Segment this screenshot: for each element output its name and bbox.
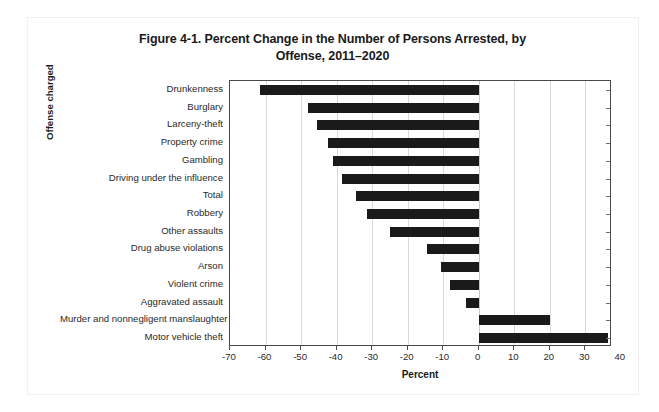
y-axis-tick-label: Aggravated assault bbox=[60, 296, 223, 307]
bar-row bbox=[230, 205, 610, 223]
bar-row bbox=[230, 134, 610, 152]
y-axis-tick bbox=[606, 303, 610, 304]
bar-row bbox=[230, 116, 610, 134]
x-axis-title: Percent bbox=[229, 369, 611, 380]
y-axis-tick-label: Total bbox=[60, 189, 223, 200]
y-axis-tick bbox=[606, 125, 610, 126]
x-axis-tick-label: -50 bbox=[293, 351, 307, 362]
x-axis-tick bbox=[229, 346, 230, 350]
x-axis-tick bbox=[442, 346, 443, 350]
chart-title: Figure 4-1. Percent Change in the Number… bbox=[60, 31, 605, 65]
bar-row bbox=[230, 312, 610, 330]
x-axis-tick bbox=[265, 346, 266, 350]
x-axis-tick-label: -60 bbox=[258, 351, 272, 362]
figure-container: Figure 4-1. Percent Change in the Number… bbox=[0, 0, 659, 412]
x-axis-tick-label: 20 bbox=[543, 351, 554, 362]
bar-row bbox=[230, 276, 610, 294]
y-axis-tick-label: Robbery bbox=[60, 207, 223, 218]
bar bbox=[479, 315, 550, 325]
y-axis-tick bbox=[606, 267, 610, 268]
x-axis-tick-label: 10 bbox=[508, 351, 519, 362]
y-axis-tick-label: Arson bbox=[60, 260, 223, 271]
y-axis-tick-label: Other assaults bbox=[60, 225, 223, 236]
bar bbox=[317, 120, 479, 130]
y-axis-tick bbox=[606, 90, 610, 91]
x-axis-tick bbox=[300, 346, 301, 350]
chart-title-line-1: Figure 4-1. Percent Change in the Number… bbox=[60, 31, 605, 48]
bar bbox=[427, 244, 479, 254]
y-axis-tick-label: Drug abuse violations bbox=[60, 242, 223, 253]
bar bbox=[479, 333, 609, 343]
bar-row bbox=[230, 223, 610, 241]
y-axis-tick bbox=[606, 285, 610, 286]
y-axis-tick bbox=[606, 108, 610, 109]
chart-title-line-2: Offense, 2011–2020 bbox=[60, 48, 605, 65]
bar-row bbox=[230, 329, 610, 346]
y-axis-title: Offense charged bbox=[44, 64, 55, 140]
x-axis-tick bbox=[407, 346, 408, 350]
y-axis-tick bbox=[606, 338, 610, 339]
y-axis-tick bbox=[606, 232, 610, 233]
x-axis-tick bbox=[336, 346, 337, 350]
x-axis-tick-label: 40 bbox=[615, 351, 626, 362]
bar bbox=[356, 191, 479, 201]
bar bbox=[328, 138, 479, 148]
y-axis-tick bbox=[606, 143, 610, 144]
bar-row bbox=[230, 99, 610, 117]
y-axis-tick bbox=[606, 179, 610, 180]
bar-row bbox=[230, 258, 610, 276]
x-axis-tick-label: 30 bbox=[579, 351, 590, 362]
bar bbox=[308, 103, 479, 113]
y-axis-tick-labels: DrunkennessBurglaryLarceny-theftProperty… bbox=[60, 80, 223, 346]
y-axis-tick bbox=[606, 214, 610, 215]
bar-row bbox=[230, 187, 610, 205]
x-axis-tick bbox=[478, 346, 479, 350]
bar-row bbox=[230, 81, 610, 99]
x-axis-tick-label: -30 bbox=[364, 351, 378, 362]
y-axis-tick bbox=[606, 249, 610, 250]
plot-area bbox=[229, 80, 611, 346]
bar bbox=[466, 298, 478, 308]
y-axis-tick-label: Murder and nonnegligent manslaughter bbox=[60, 313, 223, 324]
y-axis-tick bbox=[606, 320, 610, 321]
x-axis-tick bbox=[371, 346, 372, 350]
bar bbox=[450, 280, 478, 290]
bar bbox=[342, 174, 479, 184]
bar bbox=[367, 209, 479, 219]
y-axis-tick bbox=[606, 161, 610, 162]
bar bbox=[390, 227, 479, 237]
y-axis-tick-label: Larceny-theft bbox=[60, 118, 223, 129]
x-axis-tick-label: -20 bbox=[400, 351, 414, 362]
bar-row bbox=[230, 241, 610, 259]
x-axis-tick-label: -70 bbox=[222, 351, 236, 362]
bar-row bbox=[230, 170, 610, 188]
bar bbox=[441, 262, 478, 272]
y-axis-tick-label: Driving under the influence bbox=[60, 172, 223, 183]
x-axis-tick bbox=[513, 346, 514, 350]
x-axis-tick-label: 0 bbox=[475, 351, 480, 362]
x-axis-tick-label: -10 bbox=[435, 351, 449, 362]
x-axis-tick bbox=[584, 346, 585, 350]
bar bbox=[333, 156, 479, 166]
y-axis-tick-label: Violent crime bbox=[60, 278, 223, 289]
y-axis-tick bbox=[606, 196, 610, 197]
x-axis-tick bbox=[549, 346, 550, 350]
y-axis-tick-label: Property crime bbox=[60, 136, 223, 147]
bar-row bbox=[230, 294, 610, 312]
x-axis-tick-label: -40 bbox=[329, 351, 343, 362]
y-axis-tick-label: Burglary bbox=[60, 101, 223, 112]
y-axis-tick-label: Drunkenness bbox=[60, 83, 223, 94]
x-axis-tick-labels: -70-60-50-40-30-20-10010203040 bbox=[229, 351, 611, 365]
y-axis-tick-label: Gambling bbox=[60, 154, 223, 165]
bar bbox=[260, 85, 479, 95]
y-axis-tick-label: Motor vehicle theft bbox=[60, 331, 223, 342]
bar-row bbox=[230, 152, 610, 170]
